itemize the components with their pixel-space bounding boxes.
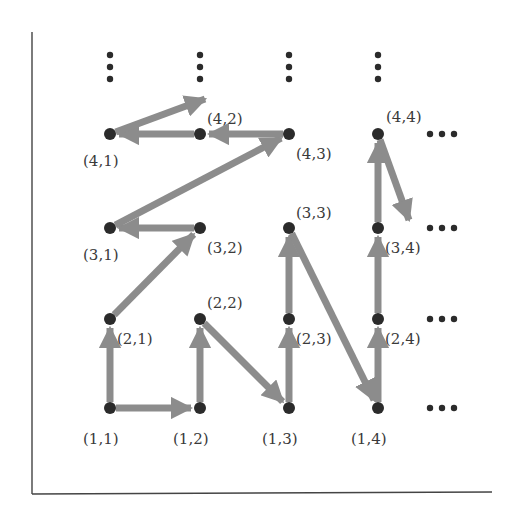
node-label-1-2: (1,2): [173, 430, 209, 448]
node-label-4-4: (4,4): [386, 108, 422, 126]
node-label-4-3: (4,3): [296, 145, 332, 163]
node-label-2-4: (2,4): [385, 330, 421, 348]
node-label-3-2: (3,2): [207, 239, 243, 257]
node-1-3: [283, 402, 295, 414]
node-2-4: [372, 313, 384, 325]
horizontal-ellipsis-icon: [427, 225, 457, 231]
node-label-4-1: (4,1): [83, 152, 119, 170]
nodes: [104, 128, 384, 414]
node-2-2: [194, 313, 206, 325]
node-label-1-3: (1,3): [262, 430, 298, 448]
node-3-4: [372, 222, 384, 234]
vertical-ellipsis-icon: [286, 52, 292, 82]
node-1-4: [372, 402, 384, 414]
node-label-4-2: (4,2): [207, 110, 243, 128]
node-label-3-1: (3,1): [83, 246, 119, 264]
node-3-3: [283, 222, 295, 234]
node-label-2-3: (2,3): [296, 330, 332, 348]
node-label-3-4: (3,4): [385, 239, 421, 257]
horizontal-ellipsis-icon: [427, 405, 457, 411]
horizontal-ellipsis-icon: [427, 131, 457, 137]
vertical-ellipsis-icon: [107, 52, 113, 82]
node-4-1: [104, 128, 116, 140]
arrow-3-3-to-1-4: [292, 233, 374, 400]
node-1-1: [104, 402, 116, 414]
node-label-2-2: (2,2): [207, 294, 243, 312]
node-label-1-1: (1,1): [83, 430, 119, 448]
node-1-2: [194, 402, 206, 414]
arrow-3-1-to-4-3: [115, 138, 281, 225]
node-label-1-4: (1,4): [351, 430, 387, 448]
arrow-2-2-to-1-3: [204, 323, 282, 401]
arrow-2-1-to-3-2: [114, 234, 193, 314]
node-4-2: [194, 128, 206, 140]
dovetailing-grid-diagram: (1,1)(1,2)(1,3)(1,4)(2,1)(2,2)(2,3)(2,4)…: [0, 0, 511, 515]
node-4-4: [372, 128, 384, 140]
node-2-3: [283, 313, 295, 325]
edges: [110, 99, 409, 408]
arrow-4-1-continuation: [116, 99, 205, 132]
horizontal-ellipsis-icon: [427, 316, 457, 322]
node-4-3: [283, 128, 295, 140]
node-2-1: [104, 313, 116, 325]
arrow-4-4-continuation: [380, 140, 409, 220]
vertical-ellipsis-icon: [197, 52, 203, 82]
bottom-axis-line: [32, 492, 492, 494]
node-3-1: [104, 222, 116, 234]
node-3-2: [194, 222, 206, 234]
node-label-2-1: (2,1): [117, 330, 153, 348]
vertical-ellipsis-icon: [375, 52, 381, 82]
node-label-3-3: (3,3): [296, 204, 332, 222]
